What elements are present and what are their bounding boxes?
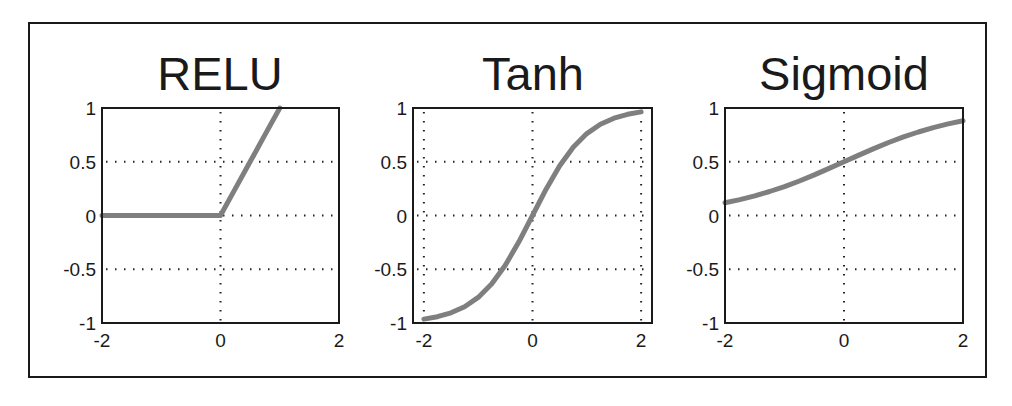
sigmoid-ytick-label: 1 [708, 98, 719, 119]
tanh-xtick-label: 2 [636, 330, 647, 351]
relu-xtick-label: 0 [215, 330, 226, 351]
tanh-ytick-label: 0.5 [381, 152, 407, 173]
sigmoid-ytick-label: 0 [708, 206, 719, 227]
sigmoid-ytick-label: -0.5 [686, 259, 719, 280]
relu-ytick-label: 1 [85, 98, 96, 119]
sigmoid-xtick-label: 2 [958, 330, 969, 351]
relu-xtick-label: 2 [334, 330, 345, 351]
sigmoid-xtick-label: 0 [839, 330, 850, 351]
relu-title: RELU [157, 47, 282, 100]
tanh-xtick-label: 0 [527, 330, 538, 351]
relu-panel: RELU -1-0.500.51-202 [63, 47, 344, 351]
tanh-title: Tanh [482, 47, 584, 100]
activation-functions-figure: RELU -1-0.500.51-202 Tanh -1-0.500.51-20… [0, 0, 1012, 406]
sigmoid-title: Sigmoid [759, 47, 929, 100]
relu-ytick-label: 0 [85, 206, 96, 227]
sigmoid-panel: Sigmoid -1-0.500.51-202 [686, 47, 968, 351]
relu-ytick-label: -0.5 [63, 259, 96, 280]
tanh-ytick-label: -0.5 [374, 259, 407, 280]
tanh-ytick-label: 1 [396, 98, 407, 119]
relu-xtick-label: -2 [94, 330, 111, 351]
sigmoid-ytick-label: 0.5 [693, 152, 719, 173]
relu-ytick-label: 0.5 [70, 152, 96, 173]
tanh-ytick-label: -1 [390, 313, 407, 334]
tanh-xtick-label: -2 [415, 330, 432, 351]
tanh-ytick-label: 0 [396, 206, 407, 227]
tanh-panel: Tanh -1-0.500.51-202 [374, 47, 652, 351]
sigmoid-xtick-label: -2 [717, 330, 734, 351]
